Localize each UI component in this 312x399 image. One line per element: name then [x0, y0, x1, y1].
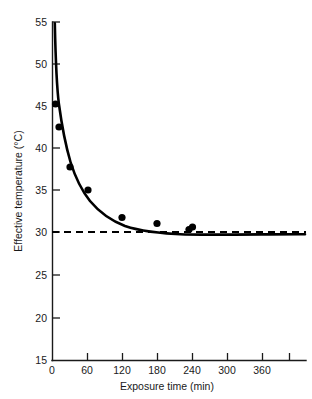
- data-point-8: [189, 223, 196, 230]
- y-tick-label-40: 40: [35, 142, 47, 154]
- data-point-5: [118, 214, 125, 221]
- x-tick-label-180: 180: [148, 364, 166, 376]
- x-tick-label-0: 0: [49, 364, 55, 376]
- y-tick-label-55: 55: [35, 16, 47, 28]
- y-tick-label-25: 25: [35, 269, 47, 281]
- data-point-1: [52, 100, 59, 107]
- chart-figure: 55 50 45 40 35 30 25 20 15 0 60 120 180 …: [0, 0, 312, 399]
- y-axis-title: Effective temperature (°C): [12, 130, 24, 251]
- data-point-2: [55, 123, 62, 130]
- y-tick-label-35: 35: [35, 184, 47, 196]
- y-tick-label-15: 15: [35, 354, 47, 366]
- data-point-6: [153, 220, 160, 227]
- exponential-decay-chart: 55 50 45 40 35 30 25 20 15 0 60 120 180 …: [0, 0, 312, 399]
- y-axis-tick-labels: 55 50 45 40 35 30 25 20 15: [35, 16, 47, 366]
- data-point-4: [84, 186, 91, 193]
- data-point-3: [66, 163, 73, 170]
- x-axis-title: Exposure time (min): [120, 380, 214, 392]
- x-tick-label-120: 120: [113, 364, 131, 376]
- y-tick-label-50: 50: [35, 58, 47, 70]
- x-tick-label-360: 360: [253, 364, 271, 376]
- x-tick-label-60: 60: [81, 364, 93, 376]
- x-tick-label-300: 300: [218, 364, 236, 376]
- y-tick-label-30: 30: [35, 226, 47, 238]
- x-tick-label-240: 240: [183, 364, 201, 376]
- y-tick-label-45: 45: [35, 100, 47, 112]
- y-tick-label-20: 20: [35, 312, 47, 324]
